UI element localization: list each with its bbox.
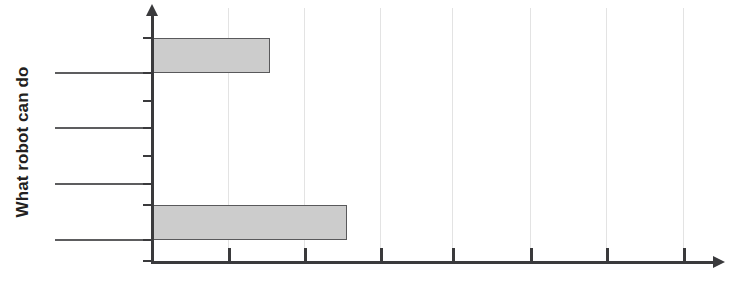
bar-chart: What robot can do: [0, 0, 732, 283]
x-axis-arrow-icon: [713, 256, 725, 268]
y-category-divider-2: [55, 127, 143, 129]
x-axis-tick-3: [304, 248, 307, 264]
x-axis-tick-5: [452, 248, 455, 264]
y-axis-tick-1: [143, 37, 153, 39]
y-axis-tick-8: [143, 239, 153, 241]
x-axis-tick-4: [380, 248, 383, 264]
y-axis-arrow-icon: [146, 4, 158, 16]
y-axis-tick-4: [143, 127, 153, 129]
y-category-divider-1: [55, 72, 143, 74]
x-axis-tick-8: [683, 248, 686, 264]
plot-area: [152, 8, 732, 262]
x-axis-tick-6: [530, 248, 533, 264]
gridline-3: [380, 8, 381, 262]
bar-2: [152, 205, 347, 240]
y-axis-title: What robot can do: [0, 0, 46, 283]
y-axis-line: [151, 14, 154, 263]
x-axis-tick-2: [228, 248, 231, 264]
chart-title: [170, 0, 590, 3]
y-axis-tick-7: [143, 204, 153, 206]
y-axis-tick-6: [143, 183, 153, 185]
y-axis-tick-2: [143, 72, 153, 74]
gridline-5: [530, 8, 531, 262]
y-category-divider-3: [55, 183, 143, 185]
gridline-7: [683, 8, 684, 262]
x-axis-tick-7: [606, 248, 609, 264]
x-axis-line: [151, 261, 715, 264]
y-axis-tick-5: [143, 155, 153, 157]
y-category-divider-4: [55, 239, 143, 241]
y-axis-title-label: What robot can do: [13, 66, 33, 217]
y-axis-tick-9: [143, 260, 153, 262]
bar-1: [152, 38, 270, 73]
gridline-6: [606, 8, 607, 262]
gridline-4: [452, 8, 453, 262]
y-axis-tick-3: [143, 100, 153, 102]
